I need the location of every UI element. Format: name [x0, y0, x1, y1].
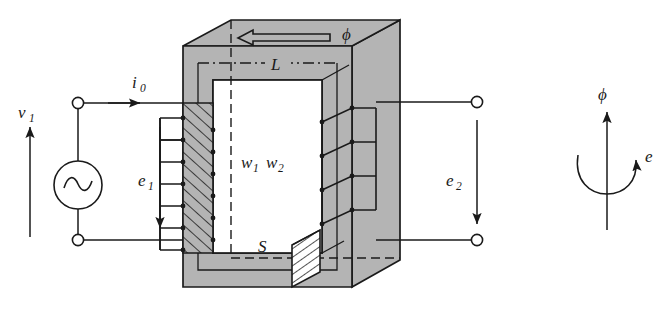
- mean-path-label-group: L: [270, 55, 280, 74]
- primary-turns-label: w: [241, 153, 253, 172]
- mean-path-label: L: [270, 55, 280, 74]
- source-voltage-label: v: [18, 103, 26, 122]
- secondary-turns-sub: 2: [278, 162, 284, 174]
- primary-current-sub: 0: [140, 82, 146, 94]
- primary-top-terminal[interactable]: [72, 97, 83, 108]
- primary-bottom-terminal[interactable]: [72, 234, 83, 245]
- right-hand-rule-inset: [577, 112, 636, 230]
- primary-circuit: [54, 97, 183, 245]
- inset-flux-label: ϕ: [598, 85, 607, 104]
- primary-emf-sub: 1: [148, 180, 154, 192]
- secondary-emf-sub: 2: [456, 180, 462, 192]
- primary-turns-sub: 1: [253, 162, 259, 174]
- source-voltage-sub: 1: [29, 112, 35, 124]
- primary-winding-coil: [160, 103, 215, 253]
- transformer-diagram-canvas: L ϕ: [0, 0, 672, 313]
- secondary-turns-label: w: [266, 153, 278, 172]
- secondary-bottom-terminal[interactable]: [471, 234, 482, 245]
- primary-current-label: i: [132, 73, 137, 92]
- secondary-emf-label: e: [446, 171, 454, 190]
- secondary-top-terminal[interactable]: [471, 96, 482, 107]
- primary-emf-label: e: [138, 171, 146, 190]
- transformer-figure: L ϕ: [0, 0, 672, 313]
- cross-section-label: S: [258, 237, 267, 256]
- ac-source-sine-icon: [54, 161, 102, 209]
- flux-top-label: ϕ: [342, 25, 351, 44]
- inset-emf-label: e: [645, 147, 653, 166]
